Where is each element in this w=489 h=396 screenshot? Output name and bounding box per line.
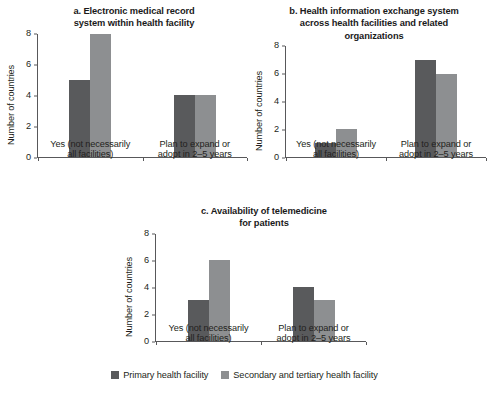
legend-label-primary: Primary health facility bbox=[123, 370, 208, 380]
chart-a-x-category-label: Plan to expand oradopt in 2–5 years bbox=[143, 136, 248, 158]
figure-container: a. Electronic medical record system with… bbox=[0, 0, 489, 396]
chart-c-title-line-2: for patients bbox=[164, 217, 364, 229]
chart-panel-c: c. Availability of telemedicine for pati… bbox=[122, 204, 368, 364]
chart-b-title-line-3: organizations bbox=[262, 30, 486, 42]
chart-c-x-category-label: Plan to expand oradopt in 2–5 years bbox=[261, 320, 366, 342]
chart-a-x-categories: Yes (not necessarilyall facilities)Plan … bbox=[38, 136, 247, 158]
chart-a-ytick-label: 0 bbox=[26, 153, 31, 162]
chart-c-ytick-label: 2 bbox=[144, 310, 149, 319]
chart-a-x-category-label: Yes (not necessarilyall facilities) bbox=[38, 136, 143, 158]
chart-c-ytick-label: 8 bbox=[144, 229, 149, 238]
chart-panel-a: a. Electronic medical record system with… bbox=[4, 2, 249, 198]
chart-c-y-axis-label: Number of countries bbox=[122, 230, 136, 364]
chart-b-x-categories: Yes (not necessarilyall facilities)Plan … bbox=[286, 136, 486, 158]
chart-b-xtick-mark bbox=[486, 158, 487, 161]
legend-item-secondary: Secondary and tertiary health facility bbox=[221, 370, 377, 380]
chart-c-xtick-mark bbox=[366, 342, 367, 345]
chart-panel-b: b. Health information exchange system ac… bbox=[252, 2, 488, 198]
chart-b-x-category-label: Plan to expand oradopt in 2–5 years bbox=[386, 136, 486, 158]
chart-b-xtick-mark bbox=[386, 158, 387, 161]
chart-a-ytick-label: 8 bbox=[26, 29, 31, 38]
chart-b-axes: 02468 Yes (not necessarilyall facilities… bbox=[268, 46, 486, 158]
chart-a-title: a. Electronic medical record system with… bbox=[30, 2, 238, 30]
chart-legend: Primary health facility Secondary and te… bbox=[0, 370, 489, 380]
chart-c-axes: 02468 Yes (not necessarilyall facilities… bbox=[138, 234, 366, 342]
chart-b-y-ticks: 02468 bbox=[268, 46, 282, 158]
chart-b-ytick-label: 2 bbox=[274, 125, 279, 134]
chart-a-ytick-label: 2 bbox=[26, 122, 31, 131]
legend-item-primary: Primary health facility bbox=[111, 370, 208, 380]
chart-c-title: c. Availability of telemedicine for pati… bbox=[164, 204, 364, 230]
legend-label-secondary: Secondary and tertiary health facility bbox=[233, 370, 377, 380]
chart-c-title-line-1: c. Availability of telemedicine bbox=[164, 205, 364, 217]
chart-a-axes: 02468 Yes (not necessarilyall facilities… bbox=[20, 34, 247, 158]
chart-b-xtick-mark bbox=[286, 158, 287, 161]
legend-swatch-secondary-icon bbox=[221, 371, 229, 379]
chart-b-ytick-label: 8 bbox=[274, 41, 279, 50]
chart-c-ytick-label: 4 bbox=[144, 283, 149, 292]
chart-c-ytick-label: 6 bbox=[144, 256, 149, 265]
chart-b-title-line-2: across health facilities and related bbox=[262, 17, 486, 29]
chart-a-title-line-2: system within health facility bbox=[30, 17, 238, 29]
chart-b-ytick-label: 0 bbox=[274, 153, 279, 162]
chart-b-ytick-label: 4 bbox=[274, 97, 279, 106]
chart-b-x-category-label: Yes (not necessarilyall facilities) bbox=[286, 136, 386, 158]
chart-b-ytick-label: 6 bbox=[274, 69, 279, 78]
chart-c-x-category-label: Yes (not necessarilyall facilities) bbox=[156, 320, 261, 342]
chart-c-y-ticks: 02468 bbox=[138, 234, 152, 342]
chart-b-y-axis-label: Number of countries bbox=[252, 42, 266, 180]
chart-a-ytick-label: 4 bbox=[26, 91, 31, 100]
chart-c-plot: Number of countries 02468 Yes (not neces… bbox=[122, 230, 368, 364]
chart-c-x-categories: Yes (not necessarilyall facilities)Plan … bbox=[156, 320, 366, 342]
chart-a-plot: Number of countries 02468 Yes (not neces… bbox=[4, 30, 249, 180]
chart-b-title: b. Health information exchange system ac… bbox=[262, 2, 486, 42]
chart-a-xtick-mark bbox=[38, 158, 39, 161]
chart-b-plot: Number of countries 02468 Yes (not neces… bbox=[252, 42, 488, 180]
chart-c-ytick-label: 0 bbox=[144, 337, 149, 346]
legend-swatch-primary-icon bbox=[111, 371, 119, 379]
chart-a-y-axis-label: Number of countries bbox=[4, 30, 18, 180]
chart-b-title-line-1: b. Health information exchange system bbox=[262, 5, 486, 17]
chart-a-ytick-label: 6 bbox=[26, 60, 31, 69]
chart-c-xtick-mark bbox=[156, 342, 157, 345]
chart-a-xtick-mark bbox=[247, 158, 248, 161]
chart-c-xtick-mark bbox=[261, 342, 262, 345]
chart-a-xtick-mark bbox=[143, 158, 144, 161]
chart-a-y-ticks: 02468 bbox=[20, 34, 34, 158]
chart-a-title-line-1: a. Electronic medical record bbox=[30, 5, 238, 17]
